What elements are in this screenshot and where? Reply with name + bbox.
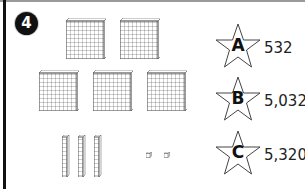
ten-rod-block: [62, 135, 70, 177]
choice-letter: C: [214, 142, 262, 162]
frame-left-border: [3, 0, 6, 189]
question-number-badge: 4: [15, 12, 38, 35]
hundred-flat-block: [66, 18, 106, 59]
hundred-flat-block: [39, 70, 79, 111]
ten-rod-block: [94, 135, 102, 177]
unit-cube-block: [164, 152, 170, 158]
unit-cube-block: [146, 152, 152, 158]
choice-value: 5,320: [264, 146, 305, 164]
hundred-flat-block: [93, 70, 133, 111]
choice-letter: A: [214, 35, 262, 55]
choice-value: 532: [264, 39, 293, 57]
ten-rod-block: [78, 135, 86, 177]
frame-top-border: [0, 0, 305, 2]
choice-letter: B: [214, 88, 262, 108]
choice-value: 5,032: [264, 92, 305, 110]
hundred-flat-block: [147, 70, 187, 111]
hundred-flat-block: [120, 18, 160, 59]
